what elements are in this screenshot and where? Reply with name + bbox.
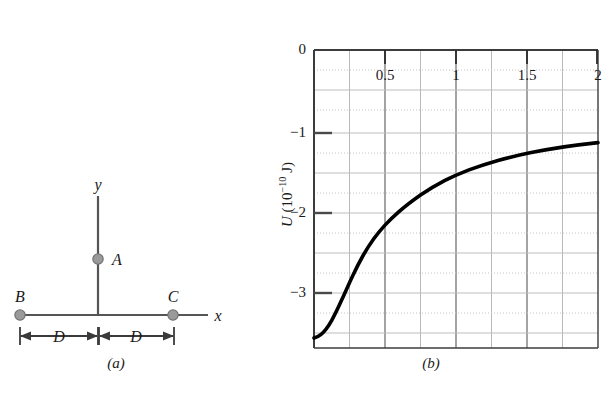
y-tick-label-minus3: −3 xyxy=(268,285,306,300)
dimension-arrow-right-end xyxy=(163,332,174,341)
figure-root: y x A B C D D (a) y (cm) U (10−10 J) xyxy=(0,0,612,399)
dimension-label-right: D xyxy=(129,328,142,345)
dimension-label-left: D xyxy=(52,328,65,345)
y-tick-label-minus2: −2 xyxy=(268,205,306,220)
charge-label-a: A xyxy=(111,251,122,268)
caption-panel-b: (b) xyxy=(250,355,612,372)
y-tick-label-0: 0 xyxy=(268,42,306,57)
dimension-arrow-left-end xyxy=(87,332,98,341)
dimension-arrow-left-start xyxy=(20,332,31,341)
caption-panel-a: (a) xyxy=(0,355,232,372)
charge-label-c: C xyxy=(168,288,179,305)
y-tick-label-minus1: −1 xyxy=(268,125,306,140)
grid-vertical xyxy=(350,50,563,348)
charge-point-c xyxy=(168,310,178,320)
axis-label-y: y xyxy=(92,176,102,194)
x-tick-label-2: 2 xyxy=(578,68,612,83)
panel-a-diagram: y x A B C D D xyxy=(0,0,250,399)
axis-label-x: x xyxy=(213,307,221,324)
charge-configuration-diagram: y x A B C D D xyxy=(0,0,250,399)
x-tick-label-1: 1 xyxy=(436,68,476,83)
x-tick-label-0-5: 0.5 xyxy=(361,68,409,83)
x-tick-label-1-5: 1.5 xyxy=(503,68,551,83)
panel-b-plot: y (cm) U (10−10 J) xyxy=(250,0,612,399)
charge-point-a xyxy=(93,254,103,264)
charge-label-b: B xyxy=(15,288,25,305)
dimension-arrow-right-start xyxy=(99,332,110,341)
potential-energy-plot xyxy=(250,0,612,399)
y-axis-ticks xyxy=(314,133,332,293)
charge-point-b xyxy=(15,310,25,320)
